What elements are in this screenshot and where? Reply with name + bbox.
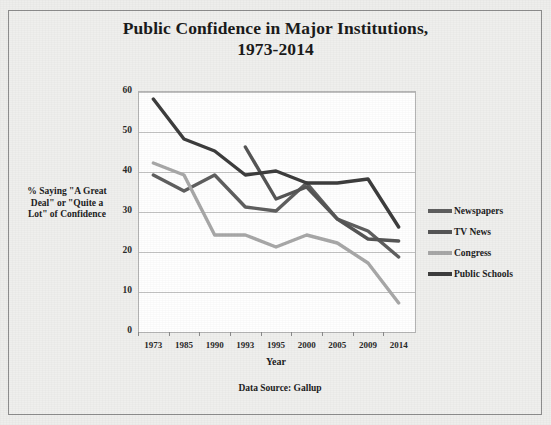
- legend-swatch-icon: [428, 230, 452, 234]
- y-axis-title-line3: Lot" of Confidence: [8, 209, 126, 221]
- series-lines: [138, 91, 414, 331]
- data-source-note: Data Source: Gallup: [120, 383, 440, 393]
- legend-label: Newspapers: [454, 206, 503, 216]
- x-axis-tick-mark: [383, 332, 384, 336]
- x-axis-tick-mark: [353, 332, 354, 336]
- x-axis-tick-label: 2009: [351, 340, 385, 350]
- y-axis-tick-label: 20: [98, 245, 132, 255]
- legend-label: TV News: [454, 227, 491, 237]
- x-axis-tick-label: 1985: [167, 340, 201, 350]
- y-axis-tick-label: 0: [98, 325, 132, 335]
- x-axis-tick-mark: [261, 332, 262, 336]
- y-axis-tick-label: 60: [98, 85, 132, 95]
- x-axis-tick-mark: [138, 332, 139, 336]
- x-axis-tick-label: 2005: [320, 340, 354, 350]
- x-axis-tick-label: 1993: [228, 340, 262, 350]
- legend-label: Congress: [454, 248, 491, 258]
- x-axis-tick-mark: [291, 332, 292, 336]
- legend-label: Public Schools: [454, 269, 513, 279]
- y-axis-tick-label: 40: [98, 165, 132, 175]
- legend-swatch-icon: [428, 272, 452, 276]
- legend-swatch-icon: [428, 209, 452, 213]
- x-axis-tick-label: 1973: [136, 340, 170, 350]
- x-axis-title: Year: [138, 356, 414, 367]
- y-axis-title-line2: Deal" or "Quite a: [8, 198, 126, 210]
- legend-swatch-icon: [428, 251, 452, 255]
- legend-item[interactable]: TV News: [428, 221, 544, 242]
- x-axis-tick-label: 2014: [382, 340, 416, 350]
- x-axis-tick-label: 2000: [290, 340, 324, 350]
- chart-page: Public Confidence in Major Institutions,…: [0, 0, 551, 425]
- x-axis-tick-mark: [230, 332, 231, 336]
- x-axis-tick-mark: [169, 332, 170, 336]
- y-axis-tick-label: 50: [98, 125, 132, 135]
- legend-item[interactable]: Congress: [428, 242, 544, 263]
- legend-item[interactable]: Public Schools: [428, 263, 544, 284]
- x-axis-tick-mark: [322, 332, 323, 336]
- chart-legend: NewspapersTV NewsCongressPublic Schools: [428, 200, 544, 284]
- x-axis-tick-mark: [199, 332, 200, 336]
- series-line: [153, 99, 398, 227]
- legend-item[interactable]: Newspapers: [428, 200, 544, 221]
- y-axis-tick-label: 10: [98, 285, 132, 295]
- y-axis-title-line1: % Saying "A Great: [8, 186, 126, 198]
- y-axis-title: % Saying "A Great Deal" or "Quite a Lot"…: [8, 186, 126, 221]
- x-axis-tick-label: 1995: [259, 340, 293, 350]
- x-axis-tick-label: 1990: [198, 340, 232, 350]
